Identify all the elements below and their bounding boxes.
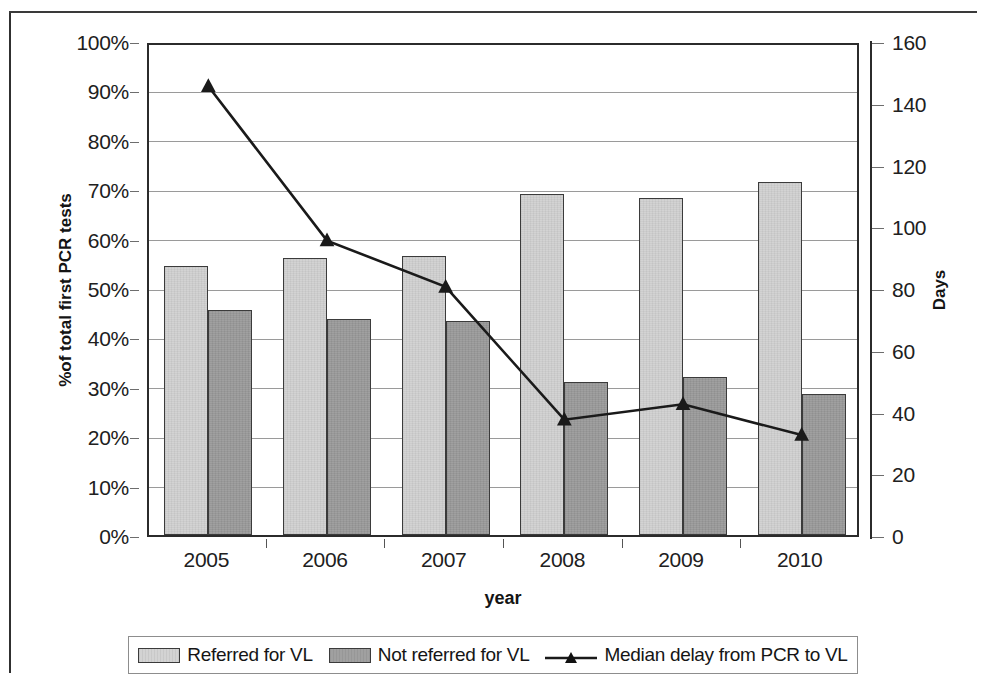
y-axis-left-tick-mark bbox=[130, 389, 139, 390]
gridline bbox=[149, 290, 857, 291]
bar-2007-referred bbox=[402, 256, 446, 535]
x-axis-tick-label-2005: 2005 bbox=[184, 548, 230, 572]
median-delay-marker-2005 bbox=[201, 78, 216, 92]
y-axis-right-tick-mark bbox=[872, 105, 884, 106]
y-axis-left-tick-label: 0% bbox=[99, 525, 129, 549]
y-axis-left-tick-mark bbox=[130, 43, 139, 44]
bar-2008-referred bbox=[520, 194, 564, 535]
y-axis-left-tick-label: 20% bbox=[88, 426, 129, 450]
gridline bbox=[149, 191, 857, 192]
plot-area bbox=[147, 43, 859, 537]
gridline bbox=[149, 240, 857, 241]
chart-legend: Referred for VL Not referred for VL Medi… bbox=[128, 636, 858, 674]
bar-2010-not-referred bbox=[802, 394, 846, 535]
x-axis-tick-mark bbox=[622, 539, 623, 548]
y-axis-left-tick-mark bbox=[130, 241, 139, 242]
y-axis-left-tick-label: 100% bbox=[76, 31, 129, 55]
gridline bbox=[149, 388, 857, 389]
y-axis-right-tick-label: 60 bbox=[892, 340, 915, 364]
y-axis-left-tick-mark bbox=[130, 191, 139, 192]
legend-label-referred: Referred for VL bbox=[187, 644, 312, 666]
y-axis-right-tick-label: 40 bbox=[892, 402, 915, 426]
y-axis-right-tick-mark bbox=[872, 352, 884, 353]
x-axis-tick-label-2006: 2006 bbox=[302, 548, 348, 572]
legend-item-not-referred[interactable]: Not referred for VL bbox=[329, 644, 530, 666]
x-axis-tick-mark bbox=[740, 539, 741, 548]
legend-item-median-delay[interactable]: Median delay from PCR to VL bbox=[545, 644, 847, 666]
gridline bbox=[149, 141, 857, 142]
legend-label-median-delay: Median delay from PCR to VL bbox=[604, 644, 847, 666]
x-axis-tick-mark bbox=[384, 539, 385, 548]
x-axis-tick-label-2008: 2008 bbox=[540, 548, 586, 572]
y-axis-left-tick-label: 60% bbox=[88, 229, 129, 253]
legend-label-not-referred: Not referred for VL bbox=[378, 644, 530, 666]
line-triangle-marker-icon bbox=[545, 648, 597, 662]
y-axis-right-spine bbox=[870, 41, 872, 539]
y-axis-right-tick-mark bbox=[872, 414, 884, 415]
bar-2007-not-referred bbox=[446, 321, 490, 535]
y-axis-right-tick-mark bbox=[872, 537, 884, 538]
y-axis-right-tick-label: 20 bbox=[892, 463, 915, 487]
y-axis-left-tick-mark bbox=[130, 290, 139, 291]
y-axis-right-tick-label: 120 bbox=[892, 155, 926, 179]
bar-2006-not-referred bbox=[327, 319, 371, 535]
bar-2009-referred bbox=[639, 198, 683, 535]
y-axis-right-tick-mark bbox=[872, 228, 884, 229]
bar-2006-referred bbox=[283, 258, 327, 535]
x-axis-tick-mark bbox=[503, 539, 504, 548]
gridline bbox=[149, 438, 857, 439]
y-axis-left-title: %of total first PCR tests bbox=[56, 140, 76, 440]
x-axis-tick-label-2010: 2010 bbox=[777, 548, 823, 572]
x-axis-tick-labels: 200520062007200820092010 bbox=[147, 548, 859, 578]
gridline bbox=[149, 339, 857, 340]
bar-2005-not-referred bbox=[208, 310, 252, 535]
y-axis-left-tick-label: 30% bbox=[88, 377, 129, 401]
y-axis-left-tick-mark bbox=[130, 488, 139, 489]
legend-item-referred[interactable]: Referred for VL bbox=[138, 644, 312, 666]
gridline bbox=[149, 487, 857, 488]
x-axis-tick-label-2009: 2009 bbox=[658, 548, 704, 572]
y-axis-right-tick-mark bbox=[872, 43, 884, 44]
x-axis-title: year bbox=[147, 588, 859, 609]
y-axis-right-tick-mark bbox=[872, 475, 884, 476]
y-axis-left-tick-label: 10% bbox=[88, 476, 129, 500]
y-axis-left-tick-mark bbox=[130, 142, 139, 143]
y-axis-left-tick-mark bbox=[130, 438, 139, 439]
y-axis-left-tick-label: 90% bbox=[88, 80, 129, 104]
gridline bbox=[149, 43, 857, 45]
x-axis-tick-mark bbox=[266, 539, 267, 548]
y-axis-left-tick-label: 70% bbox=[88, 179, 129, 203]
x-axis-tick-label-2007: 2007 bbox=[421, 548, 467, 572]
bar-2010-referred bbox=[758, 182, 802, 535]
y-axis-left-tick-mark bbox=[130, 339, 139, 340]
bar-swatch-dark-icon bbox=[329, 648, 371, 663]
y-axis-left-tick-mark bbox=[130, 92, 139, 93]
gridline bbox=[149, 92, 857, 93]
y-axis-right-tick-label: 100 bbox=[892, 216, 926, 240]
chart-figure: 100%90%80%70%60%50%40%30%20%10%0% %of to… bbox=[0, 0, 987, 685]
y-axis-left-tick-mark bbox=[130, 537, 139, 538]
y-axis-right-tick-label: 0 bbox=[892, 525, 903, 549]
y-axis-left-tick-label: 80% bbox=[88, 130, 129, 154]
y-axis-right-tick-mark bbox=[872, 167, 884, 168]
y-axis-left-tick-label: 50% bbox=[88, 278, 129, 302]
y-axis-right-tick-mark bbox=[872, 290, 884, 291]
y-axis-right-tick-label: 80 bbox=[892, 278, 915, 302]
y-axis-right-tick-label: 140 bbox=[892, 93, 926, 117]
bar-2008-not-referred bbox=[564, 382, 608, 535]
y-axis-right-title: Days bbox=[930, 230, 950, 350]
bar-2005-referred bbox=[164, 266, 208, 535]
bar-2009-not-referred bbox=[683, 377, 727, 535]
y-axis-right-tick-label: 160 bbox=[892, 31, 926, 55]
bar-swatch-light-icon bbox=[138, 648, 180, 663]
y-axis-left-tick-label: 40% bbox=[88, 327, 129, 351]
